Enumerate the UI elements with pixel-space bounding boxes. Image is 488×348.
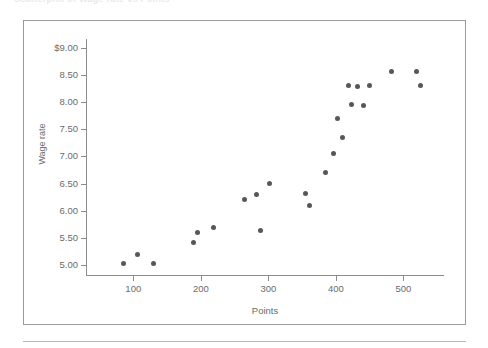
y-tick <box>81 238 86 239</box>
data-point <box>340 135 345 140</box>
y-tick <box>81 156 86 157</box>
data-point <box>335 116 340 121</box>
y-tick <box>81 184 86 185</box>
data-point <box>355 84 360 89</box>
data-point <box>331 151 336 156</box>
top-caption: Scatterplot of Wage rate vs Points <box>14 0 254 4</box>
data-point <box>323 170 328 175</box>
x-tick <box>268 276 269 281</box>
data-point <box>242 197 247 202</box>
y-tick <box>81 265 86 266</box>
y-tick <box>81 102 86 103</box>
y-tick <box>81 211 86 212</box>
data-point <box>195 230 200 235</box>
data-point <box>414 69 419 74</box>
bottom-horizontal-rule <box>23 341 466 342</box>
data-point <box>307 203 312 208</box>
data-point <box>303 191 308 196</box>
y-tick-label: 5.50 <box>34 233 78 243</box>
y-axis-title: Wage rate <box>37 104 47 184</box>
y-tick-label: 5.00 <box>34 260 78 270</box>
x-tick <box>336 276 337 281</box>
data-point <box>367 83 372 88</box>
data-point <box>151 261 156 266</box>
x-tick-label: 200 <box>181 283 221 294</box>
data-point <box>191 240 196 245</box>
y-tick-label: $9.00 <box>34 43 78 53</box>
x-tick-label: 400 <box>316 283 356 294</box>
data-point <box>267 181 272 186</box>
data-point <box>258 228 263 233</box>
x-tick <box>403 276 404 281</box>
x-axis-title: Points <box>86 305 444 316</box>
x-tick-label: 300 <box>248 283 288 294</box>
x-tick-label: 100 <box>113 283 153 294</box>
data-point <box>254 192 259 197</box>
y-tick <box>81 48 86 49</box>
data-point <box>135 252 140 257</box>
data-point <box>389 69 394 74</box>
y-axis-line <box>86 39 87 276</box>
y-tick <box>81 129 86 130</box>
data-point <box>418 83 423 88</box>
y-tick-label: 6.00 <box>34 206 78 216</box>
data-point <box>349 102 354 107</box>
data-point <box>121 261 126 266</box>
data-point <box>346 83 351 88</box>
x-axis-line <box>86 275 444 276</box>
x-tick <box>133 276 134 281</box>
y-tick-label: 8.50 <box>34 70 78 80</box>
x-tick <box>201 276 202 281</box>
data-point <box>211 225 216 230</box>
x-tick-label: 500 <box>383 283 423 294</box>
figure-frame: 5.005.506.006.507.007.508.008.50$9.00 10… <box>23 20 466 325</box>
y-tick <box>81 75 86 76</box>
scatter-plot: 5.005.506.006.507.007.508.008.50$9.00 10… <box>24 21 465 324</box>
data-point <box>361 103 366 108</box>
